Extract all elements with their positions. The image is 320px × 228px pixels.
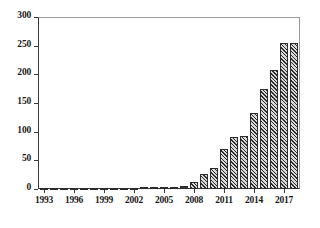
bar	[60, 188, 67, 190]
bar	[240, 136, 247, 189]
bar	[220, 149, 227, 189]
bar	[250, 113, 257, 189]
bar	[160, 187, 167, 189]
bar	[290, 43, 297, 189]
bar-series	[0, 0, 320, 228]
bar-chart: 050100150200250300 199319961999200220052…	[0, 0, 320, 228]
bar	[200, 174, 207, 189]
bar	[70, 188, 77, 190]
bar	[230, 137, 237, 189]
bar	[120, 188, 127, 190]
bar	[110, 188, 117, 190]
bar	[260, 89, 267, 189]
bar	[50, 188, 57, 190]
bar	[80, 188, 87, 190]
bar	[210, 168, 217, 189]
bar	[170, 187, 177, 189]
bar	[100, 188, 107, 190]
bar	[270, 70, 277, 189]
bar	[150, 187, 157, 189]
bar	[90, 188, 97, 190]
bar	[280, 43, 287, 189]
bar	[190, 182, 197, 189]
bar	[130, 188, 137, 190]
bar	[140, 187, 147, 189]
bar	[40, 188, 47, 190]
bar	[180, 186, 187, 189]
